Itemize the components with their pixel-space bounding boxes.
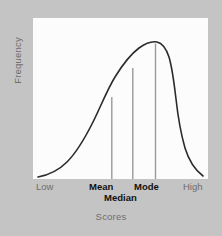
x-axis-secondary-tick-row: Median [0, 191, 222, 204]
distribution-curve-svg [33, 18, 208, 179]
x-tick-median: Median [104, 191, 137, 204]
x-axis-label: Scores [0, 211, 222, 222]
frequency-curve-path [38, 42, 203, 177]
chart-figure: Frequency Low Mean Mode High Median Scor… [0, 0, 222, 236]
y-axis-label: Frequency [12, 16, 23, 106]
plot-area [33, 18, 208, 179]
